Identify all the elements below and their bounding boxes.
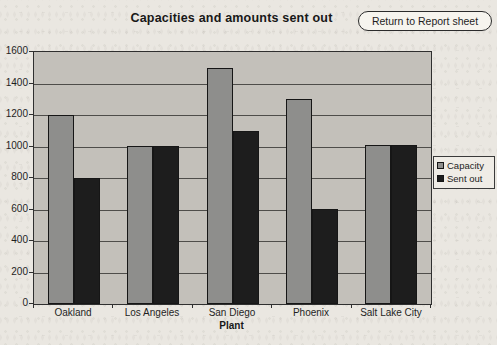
y-tick [29, 51, 33, 52]
legend-item-capacity: Capacity [437, 160, 492, 171]
y-tick-label-400: 400 [11, 234, 28, 246]
legend-swatch-sent-out [437, 175, 444, 182]
y-tick-label-1000: 1000 [6, 140, 28, 152]
x-category-label-san-diego: San Diego [192, 307, 272, 318]
bar-sent-out-oakland [74, 178, 100, 304]
y-tick-label-1400: 1400 [6, 77, 28, 89]
bar-capacity-san-diego [207, 68, 233, 304]
y-axis-ticks [29, 51, 33, 304]
y-tick-label-200: 200 [11, 266, 28, 278]
y-tick [29, 272, 33, 273]
y-tick [29, 146, 33, 147]
plot-area [33, 51, 432, 305]
y-tick [29, 177, 33, 178]
x-category-label-los-angeles: Los Angeles [112, 307, 192, 318]
bar-capacity-phoenix [286, 99, 312, 304]
bar-capacity-los-angeles [127, 146, 153, 304]
bar-sent-out-salt-lake-city [391, 145, 417, 304]
y-tick [29, 114, 33, 115]
bar-sent-out-phoenix [312, 209, 338, 304]
scanned-worksheet-page: Capacities and amounts sent out Return t… [0, 0, 497, 345]
legend: CapacitySent out [433, 156, 495, 189]
y-tick-label-1600: 1600 [6, 45, 28, 57]
y-tick [29, 83, 33, 84]
bar-sent-out-los-angeles [153, 146, 179, 304]
legend-label-capacity: Capacity [447, 160, 484, 171]
y-tick [29, 209, 33, 210]
x-category-label-salt-lake-city: Salt Lake City [351, 307, 431, 318]
y-tick-label-0: 0 [22, 297, 28, 309]
bar-sent-out-san-diego [233, 131, 259, 304]
y-tick-label-800: 800 [11, 171, 28, 183]
legend-label-sent-out: Sent out [447, 173, 482, 184]
x-axis-title: Plant [33, 320, 430, 331]
legend-swatch-capacity [437, 162, 444, 169]
legend-item-sent-out: Sent out [437, 173, 492, 184]
x-category-label-oakland: Oakland [33, 307, 113, 318]
bar-capacity-oakland [48, 115, 74, 304]
y-axis-labels: 16001400120010008006004002000 [0, 51, 28, 303]
x-axis-labels: OaklandLos AngelesSan DiegoPhoenixSalt L… [33, 307, 430, 319]
bar-capacity-salt-lake-city [365, 145, 391, 304]
x-category-label-phoenix: Phoenix [271, 307, 351, 318]
y-tick-label-600: 600 [11, 203, 28, 215]
y-tick [29, 240, 33, 241]
y-tick-label-1200: 1200 [6, 108, 28, 120]
return-to-report-sheet-button[interactable]: Return to Report sheet [358, 11, 492, 31]
